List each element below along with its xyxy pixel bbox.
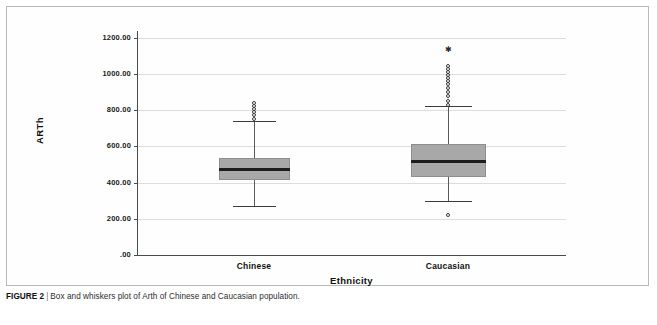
y-tick-mark-1000 [134, 74, 138, 75]
gridline-1000 [138, 74, 566, 75]
whisker-cap-lower-chinese [233, 206, 276, 207]
outlier-caucasian [446, 94, 450, 98]
extreme-outlier-caucasian: ✱ [444, 47, 452, 52]
y-tick-label-400: 400.00 [67, 179, 131, 187]
x-tick-label-caucasian: Caucasian [388, 261, 508, 271]
outlier-chinese [252, 101, 256, 105]
whisker-cap-lower-caucasian [425, 201, 472, 202]
y-tick-label-1200: 1200.00 [67, 34, 131, 42]
whisker-lower-chinese [254, 180, 255, 206]
outlier-caucasian [446, 64, 450, 68]
outlier-caucasian [446, 99, 450, 103]
y-tick-mark-800 [134, 110, 138, 111]
x-axis-line [137, 255, 566, 256]
median-chinese [219, 168, 290, 171]
boxplot-canvas: 1200.00 1000.00 800.00 600.00 400.00 200… [7, 7, 650, 287]
y-axis-line [137, 31, 138, 256]
y-tick-mark-1200 [134, 38, 138, 39]
whisker-upper-caucasian [448, 106, 449, 144]
figure-caption-text: Box and whiskers plot of Arth of Chinese… [50, 292, 300, 301]
outlier-caucasian [446, 86, 450, 90]
whisker-lower-caucasian [448, 177, 449, 201]
y-axis-title: ARTh [34, 86, 45, 176]
figure-caption: FIGURE 2|Box and whiskers plot of Arth o… [6, 292, 649, 301]
figure-image-frame: 1200.00 1000.00 800.00 600.00 400.00 200… [6, 6, 649, 286]
figure-root: 1200.00 1000.00 800.00 600.00 400.00 200… [0, 0, 657, 325]
outlier-chinese [252, 117, 256, 121]
whisker-upper-chinese [254, 121, 255, 158]
figure-caption-label: FIGURE 2 [6, 292, 44, 301]
x-axis-title: Ethnicity [137, 275, 566, 286]
y-tick-mark-200 [134, 219, 138, 220]
median-caucasian [411, 160, 486, 163]
y-tick-label-200: 200.00 [67, 215, 131, 223]
y-tick-label-0: .00 [67, 251, 131, 259]
gridline-1200 [138, 38, 566, 39]
y-tick-mark-600 [134, 146, 138, 147]
outlier-low-caucasian [446, 213, 450, 217]
gridline-800 [138, 110, 566, 111]
y-tick-mark-400 [134, 183, 138, 184]
gridline-600 [138, 146, 566, 147]
gridline-200 [138, 219, 566, 220]
y-tick-label-800: 800.00 [67, 106, 131, 114]
gridline-400 [138, 183, 566, 184]
y-tick-label-1000: 1000.00 [67, 70, 131, 78]
outlier-caucasian [446, 103, 450, 107]
x-tick-label-chinese: Chinese [194, 261, 314, 271]
outlier-caucasian [446, 90, 450, 94]
whisker-cap-upper-chinese [233, 121, 276, 122]
y-tick-label-600: 600.00 [67, 142, 131, 150]
y-tick-mark-0 [134, 255, 138, 256]
